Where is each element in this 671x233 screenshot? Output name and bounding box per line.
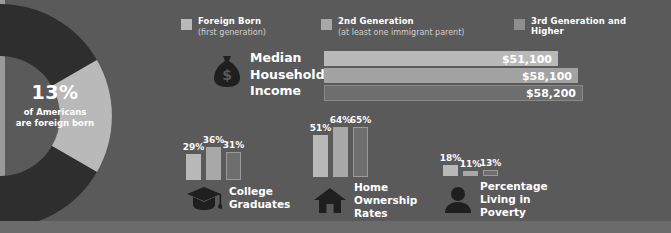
mini-bar-2nd-generation — [333, 127, 348, 177]
metric-college-graduates: 29% 36% 31% College Graduates — [186, 128, 290, 212]
metric-percentage-living-in-poverty: 18% 11% 13% Percentage Living in Poverty — [443, 150, 548, 218]
metric-label-line3: Poverty — [480, 206, 526, 218]
donut-chart: 13% of Americans are foreign born — [0, 2, 172, 230]
metric-label: Home Ownership Rates — [354, 181, 417, 219]
legend-item-label: Foreign Born — [198, 17, 266, 27]
mini-col: 29% — [186, 128, 201, 180]
svg-text:$: $ — [222, 67, 232, 83]
metric-label-line1: Percentage — [480, 180, 548, 192]
mini-bar-2nd-generation — [463, 171, 478, 176]
metric-label: Percentage Living in Poverty — [480, 180, 548, 218]
legend-item-sublabel: (at least one immigrant parent) — [338, 28, 464, 37]
mini-col: 64% — [333, 115, 348, 177]
income-bar-3rd-generation: $58,200 — [324, 85, 583, 101]
mini-col: 18% — [443, 150, 458, 176]
legend-item-foreign-born[interactable]: Foreign Born (first generation) — [181, 17, 266, 37]
metric-label-line2: Graduates — [229, 198, 290, 210]
house-icon — [313, 186, 347, 214]
income-bar-value: $58,200 — [526, 87, 576, 100]
mini-col: 31% — [226, 128, 241, 180]
mini-bar-foreign-born — [186, 154, 201, 180]
mini-col: 11% — [463, 150, 478, 176]
mini-bar-value: 64% — [330, 115, 352, 125]
legend: Foreign Born (first generation) 2nd Gene… — [181, 17, 661, 43]
income-bar-value: $51,100 — [502, 52, 552, 65]
income-title-line1: Median — [250, 50, 301, 65]
mini-bar-foreign-born — [313, 135, 328, 177]
mini-bar-3rd-generation — [353, 127, 368, 177]
legend-swatch-icon — [514, 19, 525, 30]
metric-label-line2: Ownership — [354, 194, 417, 206]
metric-label-line2: Living in — [480, 193, 530, 205]
mini-col: 36% — [206, 128, 221, 180]
mini-bar-value: 29% — [183, 142, 205, 152]
mini-bar-3rd-generation — [226, 152, 241, 180]
legend-swatch-icon — [321, 19, 332, 30]
donut-chart-icon — [0, 2, 172, 230]
metric-label-line3: Rates — [354, 207, 388, 219]
mini-bar-value: 51% — [310, 123, 332, 133]
mini-bar-value: 65% — [350, 115, 372, 125]
poverty-bar-chart: 18% 11% 13% — [443, 150, 548, 176]
income-title-line2: Household — [250, 67, 325, 82]
income-bar-2nd-generation: $58,100 — [324, 68, 578, 83]
person-icon — [443, 185, 473, 213]
mini-bar-foreign-born — [443, 165, 458, 176]
home-ownership-bar-chart: 51% 64% 65% — [313, 115, 417, 177]
mini-col: 13% — [483, 150, 498, 176]
legend-item-text: 2nd Generation (at least one immigrant p… — [338, 17, 464, 37]
mini-bar-value: 31% — [223, 140, 245, 150]
income-title-line3: Income — [250, 83, 301, 98]
legend-item-2nd-generation[interactable]: 2nd Generation (at least one immigrant p… — [321, 17, 464, 37]
mini-bar-value: 11% — [460, 159, 482, 169]
legend-swatch-icon — [181, 19, 192, 30]
legend-item-sublabel: (first generation) — [198, 28, 266, 37]
infographic-root: 13% of Americans are foreign born Foreig… — [0, 0, 671, 233]
mini-bar-value: 36% — [203, 135, 225, 145]
mini-bar-value: 13% — [480, 158, 502, 168]
metric-home-ownership-rates: 51% 64% 65% Home Ownership Rates — [313, 115, 417, 219]
legend-item-text: Foreign Born (first generation) — [198, 17, 266, 37]
income-title: Median Household Income — [250, 50, 325, 100]
metric-label: College Graduates — [229, 185, 290, 211]
home-ownership-caption: Home Ownership Rates — [313, 181, 417, 219]
income-bar-value: $58,100 — [522, 69, 572, 82]
legend-item-3rd-generation[interactable]: 3rd Generation and Higher — [514, 17, 661, 37]
college-graduates-caption: College Graduates — [186, 184, 290, 212]
metric-label-line1: College — [229, 185, 273, 197]
mini-col: 51% — [313, 115, 328, 177]
median-household-income-section: $ Median Household Income $51,100 $58,10… — [212, 50, 612, 108]
legend-item-text: 3rd Generation and Higher — [531, 17, 661, 37]
graduation-cap-icon — [186, 184, 222, 212]
mini-bar-2nd-generation — [206, 147, 221, 180]
metric-label-line1: Home — [354, 181, 388, 193]
income-bar-foreign-born: $51,100 — [324, 51, 558, 66]
mini-col: 65% — [353, 115, 368, 177]
income-bar-chart: $51,100 $58,100 $58,200 — [324, 51, 604, 103]
mini-bar-3rd-generation — [483, 170, 498, 176]
college-graduates-bar-chart: 29% 36% 31% — [186, 128, 290, 180]
legend-item-label: 3rd Generation and Higher — [531, 17, 661, 37]
mini-bar-value: 18% — [440, 153, 462, 163]
legend-item-label: 2nd Generation — [338, 17, 464, 27]
bottom-strip — [0, 221, 671, 233]
poverty-caption: Percentage Living in Poverty — [443, 180, 548, 218]
money-bag-icon: $ — [212, 54, 242, 88]
